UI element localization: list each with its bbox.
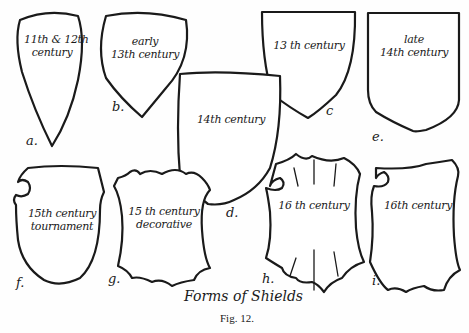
shield-f-line1: 15th century bbox=[22, 208, 102, 221]
shield-b-label: early 13th century bbox=[110, 36, 180, 61]
shield-g-line1: 15 th century bbox=[124, 206, 204, 219]
figure-caption: Fig. 12. bbox=[220, 312, 254, 324]
shield-f-line2: tournament bbox=[22, 221, 102, 234]
shield-e-line1: late bbox=[372, 34, 456, 47]
shield-a-line1: 11th & 12th bbox=[24, 34, 80, 47]
shield-h-line1: 16 th century bbox=[272, 200, 356, 213]
shield-b-line2: 13th century bbox=[110, 49, 180, 62]
shield-i-line1: 16th century bbox=[380, 200, 456, 213]
shield-c-label: 13 th century bbox=[268, 40, 350, 53]
shield-i-label: 16th century bbox=[380, 200, 456, 213]
shield-f-letter: f. bbox=[16, 276, 24, 291]
shield-c-letter: c bbox=[326, 104, 333, 119]
figure-title: Forms of Shields bbox=[184, 288, 303, 304]
shield-a-line2: century bbox=[24, 47, 80, 60]
shield-e-line2: 14th century bbox=[372, 47, 456, 60]
shield-e-label: late 14th century bbox=[372, 34, 456, 59]
shield-f-label: 15th century tournament bbox=[22, 208, 102, 233]
shield-forms-figure: 11th & 12th century a. early 13th centur… bbox=[0, 0, 469, 333]
shield-i-letter: i. bbox=[372, 274, 380, 289]
shield-g-label: 15 th century decorative bbox=[124, 206, 204, 231]
shield-d-line1: 14th century bbox=[186, 114, 276, 127]
shield-b-letter: b. bbox=[112, 100, 124, 115]
shield-h-outline bbox=[266, 154, 364, 292]
shield-a-letter: a. bbox=[26, 134, 38, 149]
shield-c-line1: 13 th century bbox=[268, 40, 350, 53]
shield-i-outline bbox=[370, 160, 460, 292]
shield-e-letter: e. bbox=[372, 130, 384, 145]
shield-h-letter: h. bbox=[262, 272, 275, 287]
shield-e-outline bbox=[368, 13, 459, 131]
shield-h-label: 16 th century bbox=[272, 200, 356, 213]
shield-a-label: 11th & 12th century bbox=[24, 34, 80, 59]
shield-d-label: 14th century bbox=[186, 114, 276, 127]
shield-g-letter: g. bbox=[108, 272, 120, 287]
shield-g-line2: decorative bbox=[124, 219, 204, 232]
shield-d-letter: d. bbox=[226, 206, 238, 221]
shield-b-line1: early bbox=[110, 36, 180, 49]
